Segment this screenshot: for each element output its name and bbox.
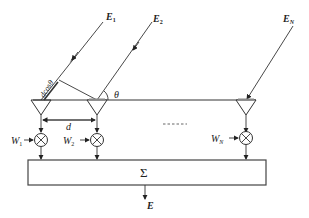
label-theta: θ [114,89,119,100]
label-en: EN [282,13,295,25]
label-w2: W2 [63,135,74,147]
multiplier-1-icon [35,134,48,147]
antenna-1 [31,100,51,115]
array-diagram: E1 E2 EN θ dcosθ d W1 W2 WN Σ E [0,0,309,218]
incident-ray-n [247,26,293,99]
antenna-n [236,99,256,116]
antenna-2 [87,99,107,116]
multiplier-n-icon [240,132,253,145]
summation-symbol: Σ [140,165,148,180]
label-e1: E1 [105,11,116,23]
label-w1: W1 [11,135,22,147]
label-spacing-d: d [66,121,72,132]
multiplier-2-icon [91,134,104,147]
wavefront-line [59,80,97,100]
label-wn: WN [211,133,224,145]
label-e2: E2 [152,13,163,25]
incident-ray-2 [97,22,152,100]
label-output-e: E [146,200,154,211]
